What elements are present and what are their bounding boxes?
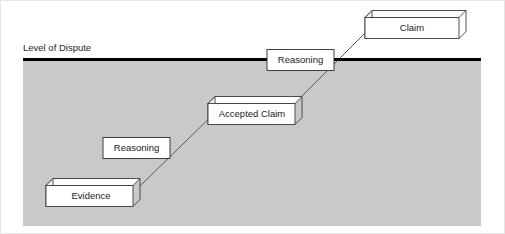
accepted-claim-top-face bbox=[208, 97, 302, 104]
node-reasoning-upper[interactable]: Reasoning bbox=[267, 50, 334, 71]
evidence-label: Evidence bbox=[71, 190, 110, 201]
reasoning-lower-label: Reasoning bbox=[114, 142, 159, 153]
diagram-canvas: Evidence Reasoning Accepted Claim Reason… bbox=[0, 0, 505, 234]
node-reasoning-lower[interactable]: Reasoning bbox=[103, 138, 170, 159]
node-claim[interactable]: Claim bbox=[365, 11, 466, 39]
claim-label: Claim bbox=[400, 22, 424, 33]
node-accepted-claim[interactable]: Accepted Claim bbox=[208, 97, 302, 125]
reasoning-upper-label: Reasoning bbox=[278, 54, 323, 65]
evidence-top-face bbox=[46, 179, 140, 186]
node-evidence[interactable]: Evidence bbox=[46, 179, 140, 207]
accepted-claim-label: Accepted Claim bbox=[219, 108, 286, 119]
level-of-dispute-label: Level of Dispute bbox=[23, 42, 91, 53]
claim-top-face bbox=[365, 11, 466, 18]
argument-staircase-diagram: Evidence Reasoning Accepted Claim Reason… bbox=[0, 0, 505, 234]
